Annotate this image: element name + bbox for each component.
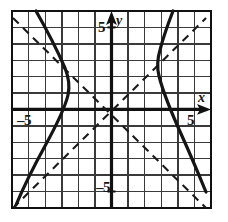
y-axis-tick-label-neg5: –5 xyxy=(96,180,110,195)
graph-figure: 5 –5 –5 5 y x xyxy=(0,0,228,222)
x-axis-tick-label-neg5: –5 xyxy=(17,113,31,128)
y-axis-name-label: y xyxy=(116,14,122,28)
x-axis-name-label: x xyxy=(198,91,205,105)
coordinate-plane xyxy=(0,0,228,222)
x-axis-tick-label-5: 5 xyxy=(187,113,194,128)
y-axis-tick-label-5: 5 xyxy=(98,20,105,35)
